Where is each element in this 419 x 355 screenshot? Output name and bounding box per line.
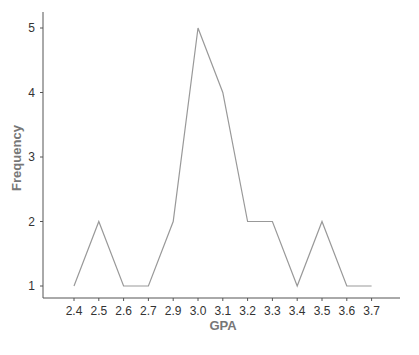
x-tick-label: 2.9 bbox=[165, 304, 182, 318]
x-tick-label: 3.6 bbox=[338, 304, 355, 318]
y-tick-label: 3 bbox=[28, 150, 35, 164]
x-tick-label: 2.4 bbox=[66, 304, 83, 318]
x-axis-title: GPA bbox=[209, 318, 237, 333]
x-tick-label: 3.5 bbox=[314, 304, 331, 318]
x-tick-label: 3.0 bbox=[190, 304, 207, 318]
x-axis-ticks: 2.42.52.62.72.93.03.13.23.33.43.53.63.7 bbox=[66, 298, 381, 318]
frequency-polygon-chart: 12345 2.42.52.62.72.93.03.13.23.33.43.53… bbox=[0, 0, 419, 355]
y-tick-label: 2 bbox=[28, 215, 35, 229]
x-tick-label: 3.1 bbox=[214, 304, 231, 318]
y-tick-label: 1 bbox=[28, 279, 35, 293]
x-tick-label: 2.6 bbox=[115, 304, 132, 318]
y-tick-label: 5 bbox=[28, 21, 35, 35]
data-line bbox=[74, 28, 372, 286]
x-tick-label: 3.4 bbox=[289, 304, 306, 318]
y-tick-label: 4 bbox=[28, 86, 35, 100]
y-axis-ticks: 12345 bbox=[28, 21, 43, 293]
y-axis-title: Frequency bbox=[9, 124, 24, 191]
x-tick-label: 2.5 bbox=[90, 304, 107, 318]
x-tick-label: 3.2 bbox=[239, 304, 256, 318]
axes bbox=[43, 12, 400, 298]
x-tick-label: 3.3 bbox=[264, 304, 281, 318]
x-tick-label: 2.7 bbox=[140, 304, 157, 318]
x-tick-label: 3.7 bbox=[363, 304, 380, 318]
